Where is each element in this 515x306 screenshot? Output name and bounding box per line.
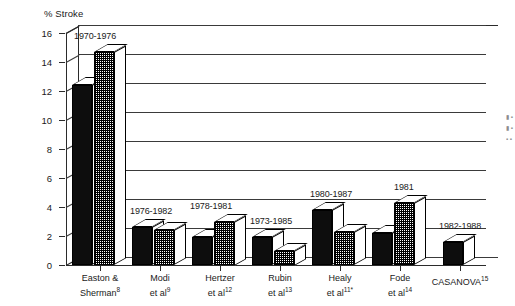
y-tick-mark <box>59 178 65 179</box>
y-tick-label: 10 <box>28 115 52 126</box>
x-axis-label-0: Easton &Sherman8 <box>80 273 120 299</box>
label-line-2: Sherman <box>80 288 117 298</box>
label-line-1: Easton & <box>82 273 119 283</box>
reference-superscript: 12 <box>225 286 232 293</box>
label-line-1: Healy <box>328 273 351 283</box>
x-axis-label-4: Healyet al11* <box>327 273 353 299</box>
x-tick-mark-0 <box>100 266 101 271</box>
bar-5-hatched-side-face <box>414 196 426 265</box>
y-tick-mark <box>59 62 65 63</box>
bar-5-black <box>372 233 392 265</box>
y-tick-label: 0 <box>28 260 52 271</box>
y-tick-mark <box>59 33 65 34</box>
bar-6-black-side-face <box>463 235 475 265</box>
y-tick-label: 8 <box>28 144 52 155</box>
label-line-1: Hertzer <box>205 273 235 283</box>
x-tick-mark-3 <box>280 266 281 271</box>
x-axis-line <box>66 265 486 266</box>
bar-4-hatched-side-face <box>354 225 366 265</box>
bar-2-hatched-side-face <box>234 215 246 265</box>
gridline <box>78 54 486 55</box>
y-tick-label: 14 <box>28 57 52 68</box>
x-axis-label-2: Hertzeret al12 <box>205 273 235 299</box>
y-tick-label: 6 <box>28 173 52 184</box>
x-tick-mark-6 <box>460 266 461 271</box>
y-tick-label: 12 <box>28 86 52 97</box>
label-line-1: Fode <box>390 273 411 283</box>
y-tick-mark <box>59 236 65 237</box>
x-tick-mark-4 <box>340 266 341 271</box>
y-tick-label: 2 <box>28 231 52 242</box>
y-tick-label: 16 <box>28 28 52 39</box>
year-label-1: 1976-1982 <box>130 206 172 216</box>
label-line-2: et al <box>208 288 225 298</box>
x-tick-mark-1 <box>160 266 161 271</box>
bar-2-hatched <box>214 222 234 266</box>
x-axis-label-6: CASANOVA15 <box>432 273 489 288</box>
x-tick-mark-5 <box>400 266 401 271</box>
year-label-2: 1978-1981 <box>190 201 232 211</box>
year-label-0: 1970-1976 <box>74 31 116 41</box>
x-tick-mark-2 <box>220 266 221 271</box>
y-tick-mark <box>59 91 65 92</box>
year-label-4: 1980-1987 <box>310 189 352 199</box>
bar-5-hatched <box>394 203 414 265</box>
label-line-1: Modi <box>150 273 170 283</box>
y-tick-mark <box>59 207 65 208</box>
label-line-2: et al <box>327 288 344 298</box>
label-line-2: et al <box>388 288 405 298</box>
bar-4-black <box>312 210 332 265</box>
gridline <box>78 83 486 84</box>
gridline-depth-edge <box>66 55 79 63</box>
x-axis-label-1: Modiet al9 <box>150 273 171 299</box>
bar-3-hatched <box>274 251 294 266</box>
bar-0-hatched-side-face <box>114 45 126 265</box>
x-axis-label-5: Fodeet al14 <box>388 273 412 299</box>
bar-6-black <box>443 242 463 265</box>
gridline <box>78 141 486 142</box>
y-tick-mark <box>59 149 65 150</box>
bar-0-hatched <box>94 52 114 265</box>
label-line-2: et al <box>268 288 285 298</box>
year-label-3: 1973-1985 <box>250 216 292 226</box>
bar-4-hatched <box>334 232 354 265</box>
reference-superscript: 11* <box>344 286 353 293</box>
gridline <box>78 170 486 171</box>
y-axis-title: % Stroke <box>44 8 83 19</box>
stroke-rate-bar-chart: % Stroke 0246810121416 1970-19761976-198… <box>0 0 515 306</box>
label-line-2: et al <box>150 288 167 298</box>
x-axis-label-3: Rubinet al13 <box>268 273 292 299</box>
label-line-1: CASANOVA <box>432 277 481 287</box>
year-label-5: 1981 <box>394 182 414 192</box>
gridline <box>78 112 486 113</box>
bar-3-black <box>252 237 272 265</box>
reference-superscript: 9 <box>167 286 171 293</box>
bar-1-black <box>132 227 152 265</box>
label-line-1: Rubin <box>268 273 292 283</box>
y-tick-label: 4 <box>28 202 52 213</box>
bar-1-hatched <box>154 230 174 265</box>
reference-superscript: 8 <box>116 286 120 293</box>
bar-0-black <box>72 85 92 265</box>
reference-superscript: 14 <box>405 286 412 293</box>
gridline <box>78 25 486 26</box>
year-label-6: 1982-1988 <box>439 221 481 231</box>
reference-superscript: 15 <box>481 275 488 282</box>
bar-1-hatched-side-face <box>174 224 186 265</box>
page-margin-text: ▮ ▪ ▮ ▪ ▪ ▪ <box>506 112 514 145</box>
reference-superscript: 13 <box>285 286 292 293</box>
bar-2-black <box>192 237 212 265</box>
y-tick-mark <box>59 265 65 266</box>
y-tick-mark <box>59 120 65 121</box>
